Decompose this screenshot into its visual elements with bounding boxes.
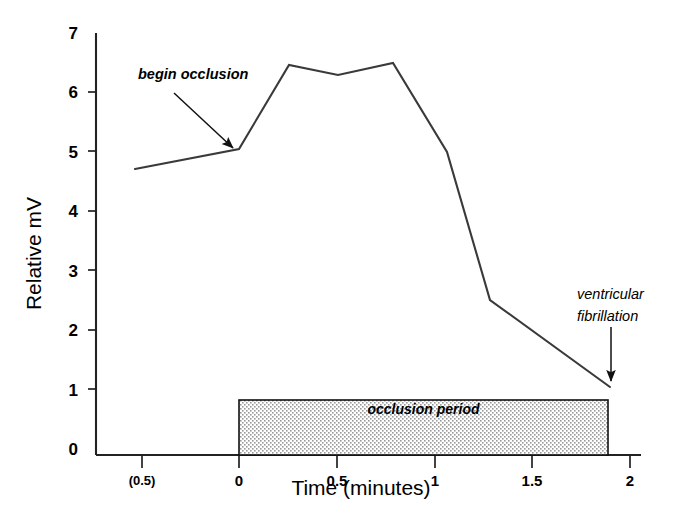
x-tick-label-neg-0-5: (0.5) (107, 474, 177, 487)
y-tick-label-3: 3 (48, 263, 78, 280)
begin-occlusion-arrow (174, 93, 233, 148)
y-tick-label-0: 0 (48, 441, 78, 458)
occlusion-period-label: occlusion period (239, 402, 608, 416)
annotation-ventricular-fibrillation: ventricular fibrillation (577, 283, 644, 328)
data-line-relative-mv (135, 63, 610, 387)
x-tick-label-1-5: 1.5 (497, 473, 567, 488)
y-tick-label-5: 5 (48, 144, 78, 161)
y-axis-ticks (88, 92, 96, 389)
annotation-vfib-line2: fibrillation (577, 305, 644, 327)
x-axis-ticks (142, 455, 630, 468)
annotation-begin-occlusion: begin occlusion (138, 63, 248, 85)
y-axis-title: Relative mV (23, 174, 44, 334)
annotation-vfib-line1: ventricular (577, 283, 644, 305)
x-tick-label-2: 2 (595, 473, 665, 488)
y-tick-label-4: 4 (48, 203, 78, 220)
y-tick-label-2: 2 (48, 322, 78, 339)
chart-plot-area (0, 0, 682, 513)
y-tick-label-6: 6 (48, 84, 78, 101)
x-axis-title: Time (minutes) (231, 477, 491, 498)
y-tick-label-1: 1 (48, 382, 78, 399)
chart-figure: 7 6 5 4 3 2 1 0 (0.5) 0 0.5 1 1.5 2 Time… (0, 0, 682, 513)
y-tick-label-7: 7 (48, 25, 78, 42)
